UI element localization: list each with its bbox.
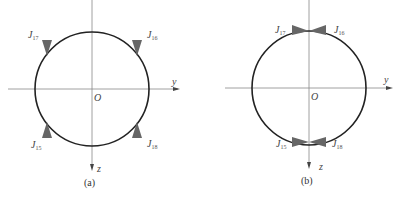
thruster-j17-icon (292, 25, 309, 35)
caption-b: (b) (301, 175, 313, 187)
origin-label: O (311, 91, 318, 102)
y-axis-arrow-icon (386, 86, 393, 90)
caption-a: (a) (84, 177, 95, 189)
label-j18: J18 (147, 138, 157, 150)
figure-b: J17 J16 J15 J18 O y z (b) (225, 0, 393, 187)
z-axis-label: z (96, 163, 101, 174)
z-axis-label: z (318, 161, 323, 172)
thruster-j16-icon (309, 25, 326, 35)
label-j15: J15 (31, 139, 41, 151)
label-j18: J18 (332, 138, 342, 150)
z-axis-arrow-icon (90, 164, 94, 171)
diagram-canvas: J17 J16 J15 J18 O y z (a) J17 J16 J15 J1… (0, 0, 399, 198)
y-axis-arrow-icon (173, 87, 180, 91)
label-j16: J16 (147, 29, 157, 41)
thruster-j16-icon (132, 40, 142, 56)
z-axis-arrow-icon (307, 162, 311, 169)
thruster-j18-icon (132, 122, 142, 138)
figure-a: J17 J16 J15 J18 O y z (a) (8, 0, 180, 189)
origin-label: O (94, 92, 101, 103)
label-j17: J17 (275, 24, 285, 36)
thruster-j17-icon (42, 40, 52, 56)
label-j16: J16 (334, 24, 344, 36)
y-axis-label: y (171, 76, 177, 87)
label-j17: J17 (28, 29, 38, 41)
y-axis-label: y (383, 74, 389, 85)
thruster-j15-icon (42, 122, 52, 138)
